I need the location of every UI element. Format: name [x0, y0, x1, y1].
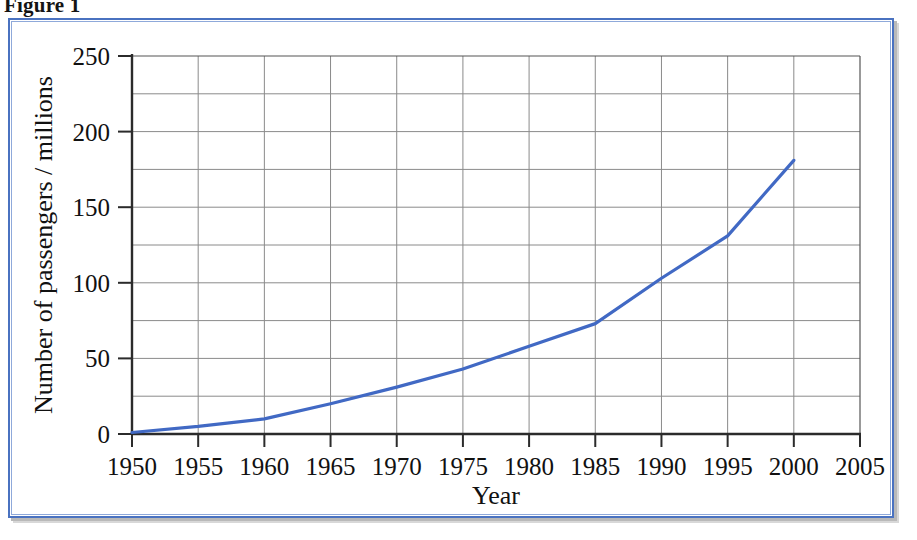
figure-caption: Figure 1 — [4, 0, 80, 18]
figure-frame: 1950195519601965197019751980198519901995… — [8, 18, 894, 518]
y-tick-label: 0 — [98, 421, 111, 448]
x-tick-label: 1980 — [504, 453, 554, 480]
x-tick-label: 1960 — [239, 453, 289, 480]
x-tick-label: 1970 — [372, 453, 422, 480]
y-tick-label: 250 — [73, 43, 111, 70]
x-tick-label: 2000 — [769, 453, 819, 480]
x-tick-label: 1990 — [636, 453, 686, 480]
x-tick-label: 2005 — [835, 453, 885, 480]
y-axis-tick-labels: 050100150200250 — [73, 43, 111, 448]
y-tick-label: 150 — [73, 194, 111, 221]
x-tick-label: 1950 — [107, 453, 157, 480]
x-axis-tick-labels: 1950195519601965197019751980198519901995… — [107, 453, 885, 480]
x-tick-label: 1975 — [438, 453, 488, 480]
y-tick-label: 50 — [85, 345, 110, 372]
y-tick-label: 100 — [73, 270, 111, 297]
y-axis-ticks — [118, 56, 132, 434]
line-chart: 1950195519601965197019751980198519901995… — [10, 20, 896, 520]
x-tick-label: 1985 — [570, 453, 620, 480]
x-tick-label: 1995 — [703, 453, 753, 480]
y-tick-label: 200 — [73, 119, 111, 146]
x-axis-ticks — [132, 434, 860, 447]
x-tick-label: 1965 — [306, 453, 356, 480]
y-axis-title: Number of passengers / millions — [29, 76, 58, 414]
x-axis-title: Year — [472, 481, 520, 510]
x-tick-label: 1955 — [173, 453, 223, 480]
